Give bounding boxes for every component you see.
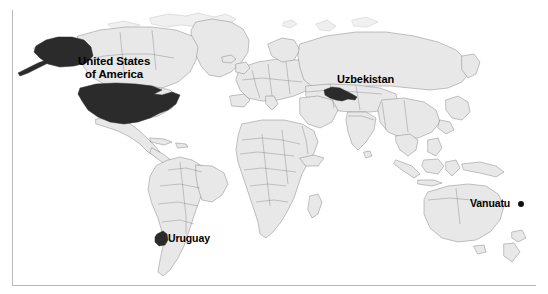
world-map-figure: United States of America Uzbekistan Urug… bbox=[0, 0, 548, 294]
frame-bottom-rule bbox=[12, 285, 536, 286]
country-label-uzbekistan: Uzbekistan bbox=[337, 74, 394, 86]
country-label-uruguay: Uruguay bbox=[168, 233, 210, 244]
frame-left-rule bbox=[12, 10, 13, 286]
country-label-united-states-line2: of America bbox=[78, 68, 150, 81]
world-map-graphic bbox=[0, 0, 548, 294]
country-label-united-states: United States of America bbox=[78, 55, 150, 81]
country-label-vanuatu: Vanuatu bbox=[470, 198, 510, 209]
vanuatu-location-dot bbox=[518, 201, 524, 207]
country-label-united-states-line1: United States bbox=[78, 55, 150, 68]
